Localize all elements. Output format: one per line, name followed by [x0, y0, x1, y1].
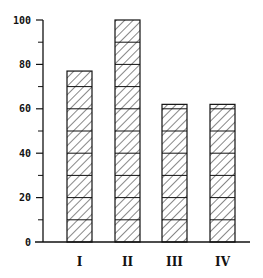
y-tick-label: 100 — [13, 15, 31, 26]
bar-fill — [162, 104, 187, 242]
y-tick-label: 80 — [19, 59, 31, 70]
bar-III — [162, 104, 187, 242]
bar-fill — [210, 104, 235, 242]
bar-I — [67, 71, 92, 242]
x-category-label: III — [166, 255, 183, 269]
y-tick-label: 0 — [25, 237, 31, 248]
bar-IV — [210, 104, 235, 242]
y-tick-label: 20 — [19, 192, 31, 203]
bar-chart: 020406080100IIIIIIIV — [0, 0, 263, 278]
x-category-label: IV — [215, 255, 231, 269]
x-category-label: I — [77, 255, 83, 269]
y-tick-label: 40 — [19, 148, 31, 159]
x-category-label: II — [122, 255, 134, 269]
bars — [67, 20, 235, 242]
bar-fill — [67, 71, 92, 242]
y-tick-label: 60 — [19, 103, 31, 114]
bar-II — [115, 20, 140, 242]
